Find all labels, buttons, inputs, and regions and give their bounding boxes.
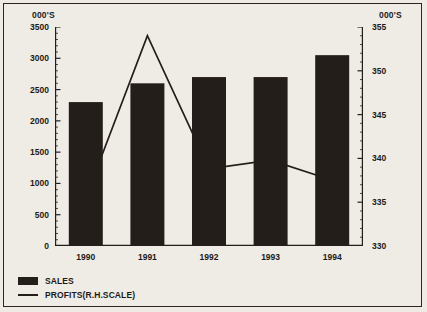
left-axis-tick: 1500 [19, 147, 49, 157]
bar-1992 [192, 77, 226, 245]
legend-label-profits: PROFITS(R.H.SCALE) [45, 290, 135, 300]
left-axis-tick: 3500 [19, 22, 49, 32]
left-axis-tick: 2000 [19, 116, 49, 126]
chart-legend: SALES PROFITS(R.H.SCALE) [18, 274, 135, 302]
chart-screenshot: 000'S 000'S 3500300025002000150010005000… [0, 0, 427, 312]
x-axis-tick: 1993 [248, 252, 294, 262]
right-axis-tick: 340 [372, 153, 404, 163]
left-axis-tick: 500 [19, 210, 49, 220]
left-axis-tick: 3000 [19, 53, 49, 63]
legend-line-swatch-icon [18, 294, 38, 296]
chart-canvas [55, 27, 363, 246]
right-axis-tick: 335 [372, 197, 404, 207]
right-axis-tick: 345 [372, 110, 404, 120]
plot-area [55, 27, 363, 246]
left-axis-tick: 1000 [19, 178, 49, 188]
bar-1990 [69, 102, 103, 245]
left-axis-tick: 0 [19, 241, 49, 251]
left-axis-caption: 000'S [32, 10, 55, 20]
x-axis-tick: 1990 [63, 252, 109, 262]
right-axis-caption: 000'S [379, 10, 402, 20]
legend-item-sales: SALES [18, 274, 135, 287]
x-axis-tick: 1991 [124, 252, 170, 262]
legend-box-swatch-icon [18, 277, 38, 285]
right-axis-tick: 355 [372, 22, 404, 32]
legend-item-profits: PROFITS(R.H.SCALE) [18, 288, 135, 301]
legend-label-sales: SALES [45, 276, 74, 286]
right-axis-tick: 350 [372, 66, 404, 76]
bar-1994 [315, 55, 349, 245]
x-axis-tick: 1994 [309, 252, 355, 262]
bar-1991 [130, 83, 164, 245]
right-axis-tick: 330 [372, 241, 404, 251]
left-axis-tick: 2500 [19, 85, 49, 95]
x-axis-tick: 1992 [186, 252, 232, 262]
